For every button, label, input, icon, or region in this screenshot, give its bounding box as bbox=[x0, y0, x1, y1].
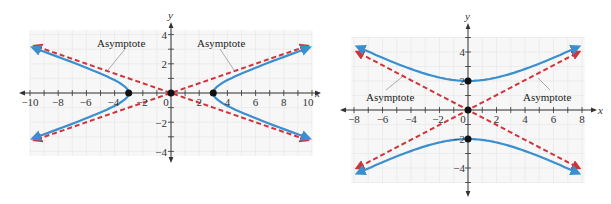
tick-label: 4 bbox=[522, 113, 528, 125]
tick-label: −6 bbox=[80, 96, 92, 108]
tick-label: −6 bbox=[377, 113, 389, 125]
tick-label: 4 bbox=[225, 96, 231, 108]
lower-vertex-point bbox=[465, 136, 472, 143]
tick-label: −4 bbox=[108, 96, 120, 108]
tick-label: 10 bbox=[303, 96, 315, 108]
tick-label: −4 bbox=[453, 162, 465, 174]
tick-label: 0 bbox=[460, 113, 466, 125]
left-y-axis-label: y bbox=[167, 9, 173, 21]
tick-label: −2 bbox=[136, 96, 148, 108]
tick-label: −8 bbox=[348, 113, 360, 125]
figure: −10 −8 −6 −4 −2 0 2 4 6 8 10 4 2 −2 −4 x… bbox=[0, 0, 611, 204]
right-vertex-point bbox=[210, 90, 217, 97]
right-asymptote-annotation-2: Asymptote bbox=[523, 91, 571, 103]
left-x-axis-label: x bbox=[314, 87, 320, 99]
left-asymptote-annotation-1: Asymptote bbox=[97, 37, 145, 49]
left-vertex-point bbox=[125, 90, 132, 97]
left-asymptote-annotation-2: Asymptote bbox=[197, 37, 245, 49]
tick-label: −2 bbox=[155, 117, 167, 129]
tick-label: −10 bbox=[21, 96, 39, 108]
tick-label: −4 bbox=[155, 146, 167, 158]
tick-label: 2 bbox=[196, 96, 202, 108]
right-hyperbola-chart: −8 −6 −4 −2 0 2 4 6 8 4 2 −2 −4 x y Asym… bbox=[343, 10, 603, 194]
tick-label: 2 bbox=[494, 113, 500, 125]
upper-vertex-point bbox=[465, 78, 472, 85]
tick-label: 2 bbox=[162, 58, 168, 70]
right-y-axis-label: y bbox=[464, 10, 470, 22]
tick-label: 0 bbox=[163, 96, 169, 108]
tick-label: −2 bbox=[453, 133, 465, 145]
tick-label: 8 bbox=[579, 113, 585, 125]
tick-label: 4 bbox=[162, 29, 168, 41]
right-x-axis-label: x bbox=[597, 104, 603, 116]
tick-label: −2 bbox=[432, 113, 444, 125]
tick-label: −8 bbox=[52, 96, 64, 108]
tick-label: 6 bbox=[253, 96, 259, 108]
tick-label: 4 bbox=[460, 46, 466, 58]
tick-label: −4 bbox=[405, 113, 417, 125]
tick-label: 6 bbox=[551, 113, 557, 125]
right-asymptote-annotation-1: Asymptote bbox=[366, 91, 414, 103]
tick-label: 2 bbox=[460, 75, 466, 87]
tick-label: 8 bbox=[281, 96, 287, 108]
left-hyperbola-chart: −10 −8 −6 −4 −2 0 2 4 6 8 10 4 2 −2 −4 x… bbox=[21, 9, 320, 160]
